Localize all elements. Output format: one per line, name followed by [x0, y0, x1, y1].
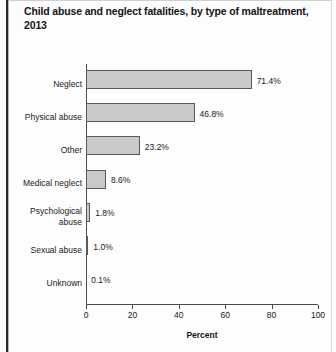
bar	[86, 136, 140, 155]
x-axis-tick-mark	[179, 305, 180, 309]
plot-area: 020406080100 Neglect71.4%Physical abuse4…	[0, 0, 336, 352]
bar	[86, 236, 88, 255]
bar-value-label: 23.2%	[145, 142, 169, 152]
figure-panel: Child abuse and neglect fatalities, by t…	[0, 0, 336, 352]
category-label: Physical abuse	[25, 112, 82, 123]
x-axis-tick-label: 100	[311, 310, 325, 320]
x-axis-tick-label: 20	[128, 310, 137, 320]
category-label: Medical neglect	[23, 178, 82, 189]
x-axis-tick-mark	[272, 305, 273, 309]
bar	[86, 70, 252, 89]
x-axis-tick-mark	[225, 305, 226, 309]
x-axis-tick-label: 60	[220, 310, 229, 320]
x-axis-tick-mark	[86, 305, 87, 309]
bar-value-label: 71.4%	[257, 76, 281, 86]
bar	[86, 103, 195, 122]
x-axis-tick-mark	[132, 305, 133, 309]
bar-value-label: 1.8%	[95, 208, 114, 218]
bar-value-label: 46.8%	[200, 109, 224, 119]
x-axis-line	[86, 304, 318, 305]
x-axis-tick-label: 40	[174, 310, 183, 320]
x-axis-tick-mark	[318, 305, 319, 309]
category-label: Other	[61, 145, 82, 156]
x-axis-tick-label: 80	[267, 310, 276, 320]
bar	[86, 170, 106, 189]
bar-value-label: 1.0%	[93, 242, 112, 252]
category-label: Unknown	[47, 278, 82, 289]
bar	[86, 203, 90, 222]
bar-value-label: 8.6%	[111, 175, 130, 185]
category-label: Psychological abuse	[30, 206, 82, 227]
x-axis-tick-label: 0	[84, 310, 89, 320]
bar-value-label: 0.1%	[91, 275, 110, 285]
x-axis-title: Percent	[86, 330, 318, 340]
category-label: Neglect	[53, 79, 82, 90]
category-label: Sexual abuse	[30, 245, 82, 256]
